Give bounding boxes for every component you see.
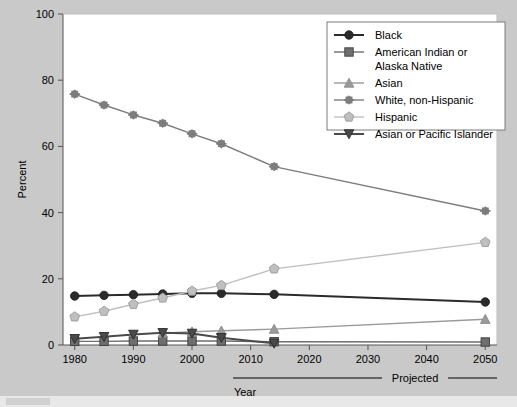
data-point-marker — [100, 291, 108, 299]
y-tick-label: 80 — [42, 74, 54, 86]
x-tick-label: 2010 — [238, 353, 262, 365]
data-point-marker — [481, 338, 489, 346]
x-tick-label: 2050 — [473, 353, 497, 365]
legend-label: Asian — [375, 77, 403, 89]
legend-label: Asian or Pacific Islander — [375, 128, 493, 140]
y-tick-label: 60 — [42, 140, 54, 152]
data-point-marker — [129, 290, 137, 298]
legend-label: White, non-Hispanic — [375, 94, 474, 106]
data-point-marker — [217, 289, 225, 297]
x-tick-label: 2000 — [180, 353, 204, 365]
y-tick-label: 0 — [48, 339, 54, 351]
y-tick-label: 20 — [42, 273, 54, 285]
bottom-left-marker — [6, 398, 50, 405]
legend-label: American Indian or — [375, 46, 468, 58]
x-tick-label: 1990 — [121, 353, 145, 365]
projected-label: Projected — [392, 372, 438, 384]
legend-label-line2: Alaska Native — [375, 60, 442, 72]
y-tick-label: 100 — [36, 8, 54, 20]
bottom-band — [0, 396, 517, 407]
data-point-marker — [71, 292, 79, 300]
data-point-marker — [481, 298, 489, 306]
legend-label: Black — [375, 29, 402, 41]
x-tick-label: 2020 — [297, 353, 321, 365]
y-tick-label: 40 — [42, 207, 54, 219]
x-tick-label: 1980 — [62, 353, 86, 365]
x-axis-title: Year — [234, 386, 257, 398]
legend-label: Hispanic — [375, 111, 418, 123]
data-point-marker — [345, 31, 353, 39]
chart-figure: 020406080100Percent198019902000201020202… — [0, 0, 517, 407]
chart-svg: 020406080100Percent198019902000201020202… — [0, 0, 517, 407]
x-tick-label: 2040 — [414, 353, 438, 365]
data-point-marker — [345, 48, 353, 56]
y-axis-title: Percent — [16, 161, 28, 199]
data-point-marker — [270, 290, 278, 298]
x-tick-label: 2030 — [356, 353, 380, 365]
legend: BlackAmerican Indian orAlaska NativeAsia… — [327, 22, 505, 140]
